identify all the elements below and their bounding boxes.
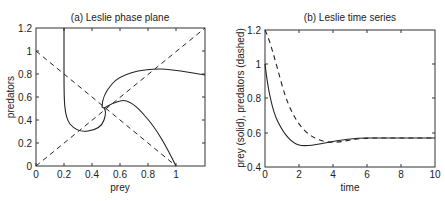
predator-series-line [265, 30, 435, 142]
prey-series-line [265, 64, 435, 146]
right-ytick-label: 1 [255, 59, 261, 70]
right-y-ticks [265, 64, 435, 133]
right-xtick-label: 4 [330, 169, 336, 180]
left-x-axis-label: prey [110, 182, 129, 193]
figure: (a) Leslie phase plane 0 0.2 0.4 0.6 0.8… [0, 0, 445, 201]
right-chart-title: (b) Leslie time series [304, 12, 396, 23]
right-ytick-label: 0.4 [247, 162, 261, 173]
predator-nullcline [36, 28, 205, 166]
right-ytick-label: 0.8 [247, 93, 261, 104]
left-x-ticks [36, 28, 176, 166]
right-xtick-label: 2 [296, 169, 302, 180]
right-xtick-label: 6 [364, 169, 370, 180]
time-series-chart: (b) Leslie time series 0 2 4 6 8 10 time… [235, 12, 441, 193]
phase-plane-chart: (a) Leslie phase plane 0 0.2 0.4 0.6 0.8… [5, 12, 205, 193]
trajectory-from-bottom [104, 101, 176, 166]
right-xtick-label: 0 [262, 169, 268, 180]
right-ytick-label: 0.6 [247, 128, 261, 139]
right-x-axis-label: time [341, 182, 360, 193]
left-ytick-label: 0.4 [18, 115, 32, 126]
left-xtick-label: 0 [33, 169, 39, 180]
left-ytick-label: 0.2 [18, 138, 32, 149]
left-ytick-label: 0 [26, 161, 32, 172]
right-y-axis-label: prey (solid), predators (dashed) [235, 28, 246, 168]
left-xtick-label: 0.6 [113, 169, 127, 180]
left-y-axis-label: predators [5, 76, 16, 118]
right-ytick-label: 1.2 [247, 25, 261, 36]
left-ytick-label: 1 [26, 46, 32, 57]
right-x-ticks [299, 30, 401, 167]
left-chart-title: (a) Leslie phase plane [71, 12, 170, 23]
left-xtick-label: 0.8 [141, 169, 155, 180]
right-plot-frame [265, 30, 435, 167]
right-xtick-label: 8 [398, 169, 404, 180]
left-xtick-label: 0.2 [57, 169, 71, 180]
left-xtick-label: 0.4 [85, 169, 99, 180]
trajectory-from-top-left [64, 28, 106, 131]
left-ytick-label: 0.8 [18, 69, 32, 80]
left-ytick-label: 0.6 [18, 92, 32, 103]
left-ytick-label: 1.2 [18, 23, 32, 34]
left-xtick-label: 1 [173, 169, 179, 180]
right-xtick-label: 10 [429, 169, 441, 180]
